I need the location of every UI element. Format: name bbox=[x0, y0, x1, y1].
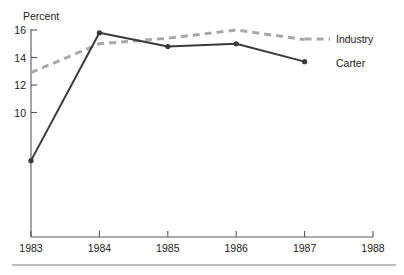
x-tick-label-1984: 1984 bbox=[88, 242, 112, 254]
data-point-carter-1984 bbox=[97, 30, 102, 35]
y-tick-label-16: 16 bbox=[14, 24, 26, 36]
chart-page: Percent 16 14 12 10 1983 1984 1985 1986 … bbox=[0, 0, 404, 275]
series-line-carter bbox=[31, 33, 305, 161]
data-point-carter-1983 bbox=[28, 158, 33, 163]
x-tick-label-1985: 1985 bbox=[156, 242, 180, 254]
x-tick-label-1986: 1986 bbox=[225, 242, 249, 254]
series-label-carter: Carter bbox=[336, 57, 366, 69]
y-tick-label-14: 14 bbox=[14, 52, 26, 64]
data-point-carter-1987 bbox=[302, 59, 307, 64]
series-markers-carter bbox=[28, 30, 307, 163]
x-tick-label-1983: 1983 bbox=[19, 242, 43, 254]
y-tick-label-10: 10 bbox=[14, 107, 26, 119]
y-axis-title: Percent bbox=[23, 10, 59, 22]
series-label-industry: Industry bbox=[336, 33, 374, 45]
data-point-carter-1985 bbox=[165, 44, 170, 49]
x-tick-label-1987: 1987 bbox=[293, 242, 317, 254]
line-chart: Percent 16 14 12 10 1983 1984 1985 1986 … bbox=[0, 0, 404, 275]
data-point-carter-1986 bbox=[234, 41, 239, 46]
y-tick-label-12: 12 bbox=[14, 79, 26, 91]
x-tick-label-1988: 1988 bbox=[361, 242, 385, 254]
